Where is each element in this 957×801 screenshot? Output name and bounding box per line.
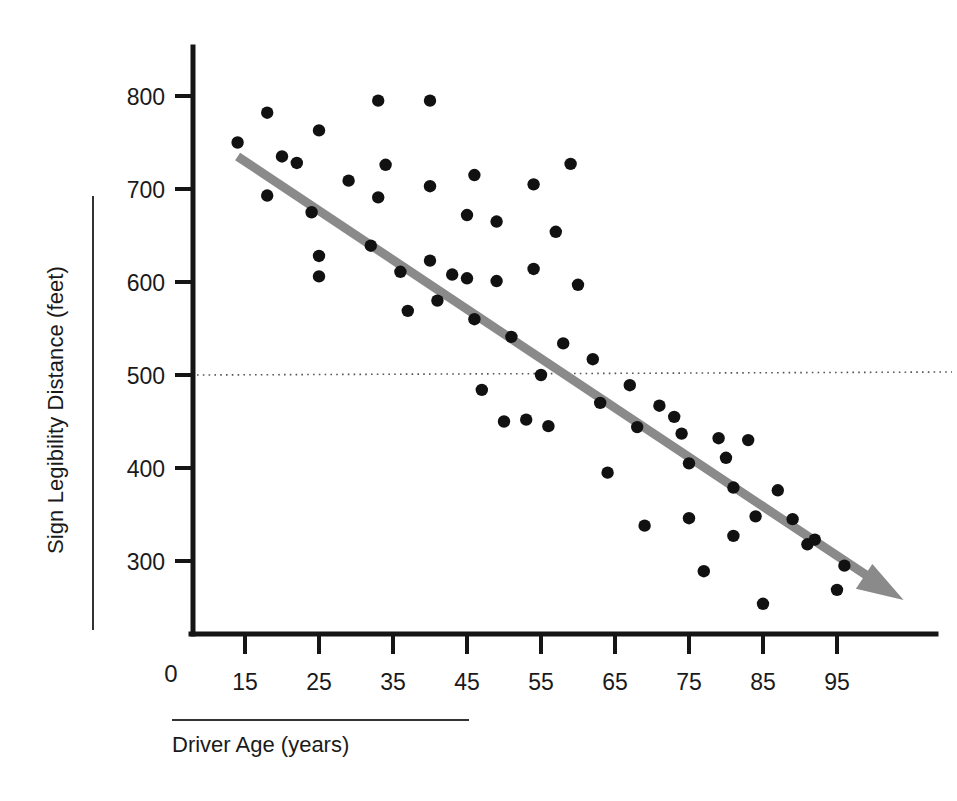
data-point bbox=[424, 180, 436, 192]
data-point bbox=[424, 94, 436, 106]
data-point bbox=[542, 420, 554, 432]
data-point bbox=[291, 157, 303, 169]
x-tick-label: 85 bbox=[750, 669, 776, 695]
data-point bbox=[468, 313, 480, 325]
data-point bbox=[527, 263, 539, 275]
data-point bbox=[557, 337, 569, 349]
axes bbox=[175, 47, 936, 654]
data-point bbox=[727, 481, 739, 493]
data-point bbox=[712, 432, 724, 444]
x-tick-label: 65 bbox=[602, 669, 628, 695]
data-point bbox=[749, 510, 761, 522]
x-tick-label: 55 bbox=[528, 669, 554, 695]
data-point bbox=[683, 512, 695, 524]
data-point bbox=[379, 159, 391, 171]
x-tick-label: 45 bbox=[454, 669, 480, 695]
data-point bbox=[698, 565, 710, 577]
data-point bbox=[772, 484, 784, 496]
y-tick-label: 800 bbox=[127, 84, 165, 110]
data-point bbox=[490, 275, 502, 287]
data-point bbox=[786, 513, 798, 525]
data-point bbox=[446, 268, 458, 280]
x-tick-label: 15 bbox=[232, 669, 258, 695]
data-point bbox=[498, 415, 510, 427]
data-point bbox=[550, 226, 562, 238]
data-point bbox=[490, 215, 502, 227]
reference-line-500 bbox=[197, 372, 952, 375]
y-tick-label: 700 bbox=[127, 177, 165, 203]
data-point bbox=[727, 530, 739, 542]
data-point bbox=[305, 206, 317, 218]
data-point bbox=[831, 584, 843, 596]
data-point bbox=[313, 270, 325, 282]
data-point bbox=[424, 254, 436, 266]
y-axis-title-rule bbox=[92, 196, 94, 630]
data-point bbox=[394, 266, 406, 278]
data-point bbox=[231, 136, 243, 148]
data-point bbox=[838, 559, 850, 571]
data-points bbox=[231, 94, 850, 610]
data-point bbox=[313, 124, 325, 136]
scatter-plot-svg: 3004005006007008001525354555657585950 bbox=[0, 0, 957, 801]
y-tick-label: 500 bbox=[127, 363, 165, 389]
data-point bbox=[261, 189, 273, 201]
data-point bbox=[342, 174, 354, 186]
data-point bbox=[527, 178, 539, 190]
data-point bbox=[372, 191, 384, 203]
reference-line bbox=[197, 372, 952, 375]
x-axis-title-text: Driver Age (years) bbox=[172, 732, 349, 758]
data-point bbox=[675, 427, 687, 439]
trend-line-segment bbox=[238, 156, 874, 580]
data-point bbox=[372, 94, 384, 106]
origin-zero-label: 0 bbox=[164, 660, 177, 687]
x-tick-label: 25 bbox=[306, 669, 332, 695]
y-tick-label: 400 bbox=[127, 456, 165, 482]
data-point bbox=[505, 331, 517, 343]
y-tick-label: 300 bbox=[127, 549, 165, 575]
data-point bbox=[313, 250, 325, 262]
data-point bbox=[809, 533, 821, 545]
x-tick-label: 35 bbox=[380, 669, 406, 695]
data-point bbox=[720, 452, 732, 464]
data-point bbox=[683, 457, 695, 469]
data-point bbox=[631, 421, 643, 433]
data-point bbox=[668, 411, 680, 423]
data-point bbox=[461, 209, 473, 221]
chart-figure: 3004005006007008001525354555657585950 Si… bbox=[0, 0, 957, 801]
data-point bbox=[476, 384, 488, 396]
data-point bbox=[461, 272, 473, 284]
data-point bbox=[431, 294, 443, 306]
x-tick-label: 95 bbox=[824, 669, 850, 695]
data-point bbox=[601, 466, 613, 478]
data-point bbox=[468, 169, 480, 181]
data-point bbox=[572, 279, 584, 291]
data-point bbox=[365, 240, 377, 252]
data-point bbox=[402, 305, 414, 317]
data-point bbox=[587, 353, 599, 365]
tick-labels: 3004005006007008001525354555657585950 bbox=[127, 84, 850, 695]
y-tick-label: 600 bbox=[127, 270, 165, 296]
data-point bbox=[276, 150, 288, 162]
data-point bbox=[535, 369, 547, 381]
data-point bbox=[594, 397, 606, 409]
data-point bbox=[520, 413, 532, 425]
data-point bbox=[742, 434, 754, 446]
data-point bbox=[624, 379, 636, 391]
data-point bbox=[638, 519, 650, 531]
x-tick-label: 75 bbox=[676, 669, 702, 695]
x-axis-title-rule bbox=[172, 719, 469, 721]
data-point bbox=[653, 399, 665, 411]
trend-line-arrow bbox=[238, 156, 904, 600]
data-point bbox=[564, 158, 576, 170]
data-point bbox=[261, 107, 273, 119]
data-point bbox=[757, 598, 769, 610]
